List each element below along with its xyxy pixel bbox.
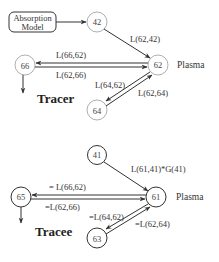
edge-label-66-62: L(66,62)	[56, 50, 86, 60]
edge-label-62-66-tracee: =L(62,66)	[45, 202, 80, 212]
edge-label-61-41: L(61,41)*G(41)	[131, 164, 186, 174]
edge-label-64-62-tracee: =L(64,62)	[89, 212, 124, 222]
svg-text:62: 62	[154, 60, 163, 70]
svg-text:66: 66	[21, 61, 30, 71]
node-65: 65	[11, 187, 31, 207]
svg-text:61: 61	[152, 192, 161, 202]
tracee-panel: 41 L(61,41)*G(41) 61 Plasma 65 = L(66,62…	[11, 146, 204, 249]
tracer-title: Tracer	[37, 91, 75, 106]
absorption-model-line2: Model	[21, 22, 44, 32]
plasma-label-tracee: Plasma	[176, 192, 204, 202]
node-66: 66	[15, 55, 35, 75]
tracer-panel: Absorption Model 42 L(62,42) 62 Plasma 6…	[9, 12, 205, 120]
edge-label-62-64: L(62,64)	[138, 88, 168, 98]
edge-label-62-64-tracee: =L(62,64)	[135, 219, 170, 229]
tracee-title: Tracee	[35, 224, 73, 239]
edge-label-62-42: L(62,42)	[130, 34, 160, 44]
node-41: 41	[88, 146, 107, 165]
edge-label-64-62: L(64,62)	[95, 80, 125, 90]
svg-text:42: 42	[93, 17, 102, 27]
compartment-diagram: Absorption Model 42 L(62,42) 62 Plasma 6…	[0, 0, 219, 262]
node-63: 63	[87, 228, 107, 248]
svg-text:41: 41	[93, 150, 102, 160]
node-64: 64	[87, 100, 107, 120]
node-62: 62	[148, 55, 168, 75]
absorption-model-box: Absorption Model	[9, 12, 56, 32]
edge-label-62-66: L(62,66)	[56, 70, 86, 80]
node-61: 61	[146, 187, 166, 207]
plasma-label-tracer: Plasma	[177, 60, 205, 70]
svg-text:65: 65	[17, 192, 26, 202]
svg-text:64: 64	[93, 106, 102, 116]
svg-text:63: 63	[93, 234, 102, 244]
edge-label-66-62-tracee: = L(66,62)	[49, 182, 86, 192]
